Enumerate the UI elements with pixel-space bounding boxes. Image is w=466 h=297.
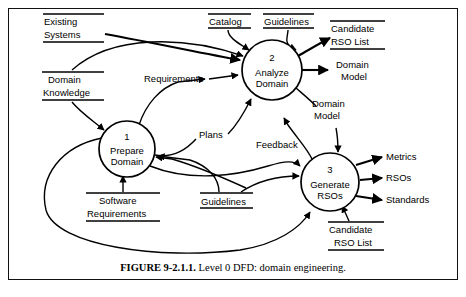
flow-requirements-prepare-to-analyze	[139, 79, 205, 125]
store-label-candidate-rso-top-line1: Candidate	[331, 23, 374, 34]
store-label-software-requirements-line2: Requirements	[87, 208, 146, 219]
flow-label-domain-model-mid-line1: Domain	[312, 98, 345, 109]
process-1-name-line2: Domain	[111, 156, 144, 167]
process-3-name-line1: Generate	[310, 179, 350, 190]
flow-label-metrics: Metrics	[386, 151, 417, 162]
store-label-software-requirements-line1: Software	[99, 195, 137, 206]
process-2-name-line1: Analyze	[255, 67, 289, 78]
flow-label-domain-model-mid-line2: Model	[314, 110, 340, 121]
flow-label-rsos: RSOs	[386, 172, 412, 183]
process-2-name-line2: Domain	[256, 78, 289, 89]
process-1-number: 1	[124, 131, 129, 142]
store-label-candidate-rso-bottom-line2: RSO List	[334, 237, 372, 248]
process-3-name-line2: RSOs	[317, 190, 343, 201]
flow-requirements-segment-2	[209, 75, 238, 79]
flow-domain-model-to-generate	[336, 128, 338, 152]
flow-catalog-to-analyze	[228, 30, 249, 50]
process-2-number: 2	[269, 52, 274, 63]
flow-label-requirements: Requirements	[144, 73, 203, 84]
store-label-candidate-rso-top-line2: RSO List	[331, 36, 369, 47]
store-label-guidelines-bottom: Guidelines	[201, 196, 246, 207]
flow-label-standards: Standards	[386, 194, 430, 205]
store-label-existing-systems-line2: Systems	[44, 29, 81, 40]
data-flow-diagram-canvas: 1 Prepare Domain 2 Analyze Domain 3 Gene…	[0, 0, 466, 297]
flow-existing-systems-to-analyze	[105, 34, 240, 60]
flow-plans-segment-2	[228, 99, 251, 134]
store-label-domain-knowledge-line1: Domain	[48, 74, 81, 85]
store-label-catalog: Catalog	[209, 16, 242, 27]
flow-domain-knowledge-to-prepare	[72, 102, 104, 130]
process-1-name-line1: Prepare	[110, 145, 144, 156]
flow-generate-to-rsos	[360, 178, 382, 180]
flow-guidelines-bottom-to-prepare	[158, 156, 219, 192]
flow-label-domain-model-right-line1: Domain	[336, 59, 369, 70]
flow-label-domain-model-right-line2: Model	[341, 71, 367, 82]
flow-analyze-to-candidate-rso-list	[298, 38, 330, 56]
flow-guidelines-bottom-to-generate	[241, 176, 299, 192]
store-label-candidate-rso-bottom-line1: Candidate	[329, 224, 372, 235]
store-label-guidelines-top: Guidelines	[264, 16, 309, 27]
flow-generate-to-standards	[356, 196, 382, 200]
flow-plans-prepare-to-analyze	[155, 139, 196, 156]
flow-label-plans: Plans	[199, 129, 223, 140]
flow-prepare-loop-to-generate	[44, 138, 310, 253]
figure-number: FIGURE 9-2.1.1.	[120, 262, 196, 273]
process-3-number: 3	[327, 164, 332, 175]
flow-generate-to-metrics	[356, 157, 382, 165]
figure-caption: FIGURE 9-2.1.1. Level 0 DFD: domain engi…	[8, 262, 458, 273]
flow-label-feedback: Feedback	[256, 139, 298, 150]
figure-caption-text: Level 0 DFD: domain engineering.	[199, 262, 346, 273]
flow-prepare-to-generate	[150, 162, 300, 176]
store-label-existing-systems-line1: Existing	[44, 16, 77, 27]
store-label-domain-knowledge-line2: Knowledge	[43, 87, 90, 98]
figure-page: 1 Prepare Domain 2 Analyze Domain 3 Gene…	[0, 0, 466, 297]
